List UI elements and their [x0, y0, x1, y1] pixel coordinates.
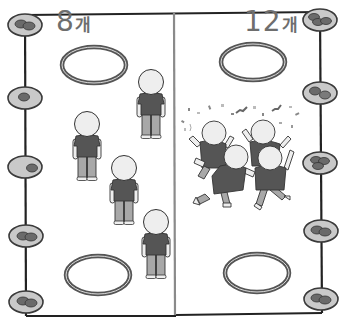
player-standing	[142, 210, 170, 279]
stone-icon	[320, 91, 331, 99]
stone-icon	[23, 22, 35, 30]
disc-right-1	[303, 9, 337, 31]
disc-left-1	[8, 14, 42, 36]
player-standing	[110, 156, 138, 225]
stone-icon	[313, 163, 324, 170]
disc-right-5	[304, 288, 338, 310]
game-field-illustration	[0, 0, 356, 335]
disc-right-4	[304, 220, 338, 242]
stone-icon	[319, 228, 331, 236]
player-standing	[73, 112, 101, 181]
disc-right-3	[303, 152, 337, 174]
stone-icon	[25, 233, 37, 241]
disc-left-5	[9, 291, 43, 313]
stone-icon	[319, 296, 331, 304]
disc-right-2	[303, 82, 337, 104]
stone-icon	[25, 299, 37, 307]
left-count-number: 8	[56, 5, 75, 38]
player-jumping	[254, 146, 294, 210]
player-standing	[137, 70, 165, 139]
stone-icon	[310, 87, 321, 95]
stone-icon	[27, 164, 38, 172]
stone-icon	[19, 93, 30, 101]
left-count-label: 8개	[56, 8, 92, 36]
left-team-players	[73, 70, 170, 279]
disc-left-4	[9, 225, 43, 247]
confetti	[181, 104, 299, 131]
right-count-unit: 개	[282, 15, 299, 35]
disc-left-2	[8, 87, 42, 109]
disc-left-3	[8, 156, 42, 178]
left-count-unit: 개	[75, 15, 92, 35]
center-divider	[174, 13, 175, 315]
stone-icon	[321, 18, 332, 25]
right-team-players	[189, 120, 294, 210]
right-count-number: 12	[244, 5, 282, 38]
right-count-label: 12개	[244, 8, 299, 36]
